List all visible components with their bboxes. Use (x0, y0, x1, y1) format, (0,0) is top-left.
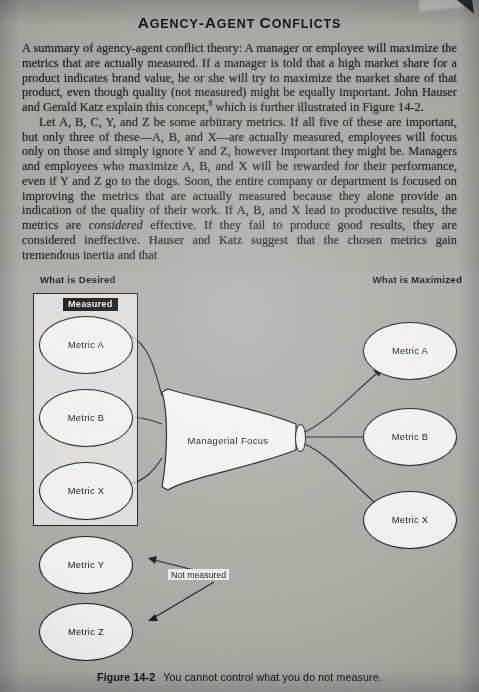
paragraph-1-text-b: which is further illustrated in Figure 1… (212, 100, 423, 114)
managerial-focus-label: Managerial Focus (168, 435, 288, 446)
paragraph-1: A summary of agency-agent conflict theor… (22, 41, 457, 115)
page-content: Agency-Agent Conflicts A summary of agen… (0, 14, 479, 262)
page-title: Agency-Agent Conflicts (22, 14, 457, 32)
node-desired-metric-z: Metric Z (39, 603, 133, 661)
figure-caption: Figure 14-2You cannot control what you d… (0, 671, 479, 683)
figure-caption-number: Figure 14-2 (97, 671, 155, 683)
node-desired-metric-y: Metric Y (39, 536, 133, 594)
column-heading-what-is-maximized: What is Maximized (372, 274, 462, 285)
funnel-neck-aperture (295, 424, 306, 452)
column-heading-what-is-desired: What is Desired (40, 274, 116, 285)
managerial-focus-funnel (162, 389, 296, 490)
page-curl-icon (456, 0, 474, 16)
arrowhead-metric-z (148, 614, 158, 621)
edge-focus-to-max-x (305, 444, 381, 508)
node-maximized-metric-b: Metric B (363, 408, 457, 466)
node-maximized-metric-a: Metric A (363, 322, 457, 380)
node-maximized-metric-x: Metric X (363, 491, 457, 549)
node-desired-metric-x: Metric X (39, 462, 133, 520)
paragraph-2-emphasis: considered (89, 218, 143, 232)
paragraph-2-text-a: Let A, B, C, Y, and Z be some arbitrary … (22, 115, 457, 232)
figure-14-2-diagram: What is Desired What is Maximized (0, 272, 479, 667)
node-desired-metric-a: Metric A (39, 316, 133, 374)
node-desired-metric-b: Metric B (39, 389, 133, 447)
not-measured-annotation: Not measured (168, 569, 229, 580)
edge-not-measured-to-metric-z (150, 582, 214, 620)
arrowhead-metric-y (148, 556, 157, 564)
measured-badge: Measured (63, 298, 118, 311)
scanned-book-page: Agency-Agent Conflicts A summary of agen… (0, 0, 479, 692)
paragraph-2: Let A, B, C, Y, and Z be some arbitrary … (22, 115, 457, 263)
figure-caption-text: You cannot control what you do not measu… (163, 671, 382, 683)
